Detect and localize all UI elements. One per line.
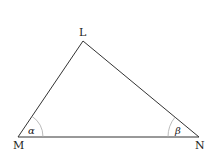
triangle-diagram: L M N α β xyxy=(0,0,215,151)
vertex-label-M: M xyxy=(13,139,24,151)
angle-label-beta: β xyxy=(174,125,181,136)
angle-label-alpha: α xyxy=(28,125,35,136)
vertex-label-N: N xyxy=(195,139,205,151)
vertex-label-L: L xyxy=(79,26,87,39)
side-LN xyxy=(83,41,199,137)
angle-arc-N xyxy=(168,117,175,137)
side-LM xyxy=(18,41,83,137)
